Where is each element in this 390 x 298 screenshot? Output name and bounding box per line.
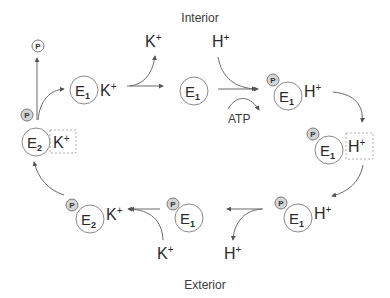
k-ion-label: K+ [100, 81, 117, 99]
phosphate-symbol: P [270, 76, 276, 85]
state-p-e1-h: P E1 H+ [267, 74, 322, 110]
arrow-to-e2-k-occluded [34, 162, 64, 195]
released-phosphate: P [32, 40, 44, 52]
k-binding-arrow [130, 209, 163, 240]
h-ion-label: H+ [348, 137, 366, 155]
phosphate-symbol: P [69, 201, 75, 210]
exterior-label: Exterior [184, 278, 225, 292]
k-ion-binding-exterior: K+ [157, 244, 174, 262]
k-release-arrow [130, 56, 155, 86]
phosphate-symbol: P [310, 130, 316, 139]
state-e2-k-occluded: E2 K+ [22, 128, 76, 156]
arrow-to-occluded-h [333, 92, 362, 122]
phosphate-symbol: P [170, 200, 176, 209]
phosphate-symbol: P [35, 42, 41, 51]
h-binding-arrow [218, 57, 256, 89]
arrow-to-e1-k [38, 89, 64, 120]
atp-arrow [228, 98, 259, 110]
atp-label: ATP [228, 112, 250, 126]
state-e1-k: E1 K+ [70, 76, 117, 104]
interior-label: Interior [181, 11, 218, 25]
state-p-e1: P E1 [167, 198, 203, 232]
h-ion-binding-interior: H+ [212, 32, 230, 50]
k-ion-label: K+ [106, 205, 123, 223]
h-release-arrow [233, 209, 262, 240]
h-ion-released-exterior: H+ [224, 244, 242, 262]
h-ion-label: H+ [304, 82, 322, 100]
h-ion-label: H+ [314, 204, 332, 222]
phosphate-symbol: P [278, 199, 284, 208]
state-p-e1-h-occluded: P E1 H+ [307, 128, 373, 164]
bound-phosphate-leaving: P [21, 109, 33, 121]
phosphate-symbol: P [24, 111, 30, 120]
state-p-e2-k: P E2 K+ [66, 199, 123, 233]
state-e1: E1 [180, 77, 208, 105]
h-k-atpase-cycle-diagram: Interior Exterior E2 K+ P P E1 K+ K+ E1 … [0, 0, 390, 298]
k-ion-label: K+ [53, 133, 70, 151]
state-p-e1-h-exterior: P E1 H+ [275, 197, 332, 232]
k-ion-released-interior: K+ [145, 32, 162, 50]
arrow-to-exterior-h [332, 165, 363, 196]
